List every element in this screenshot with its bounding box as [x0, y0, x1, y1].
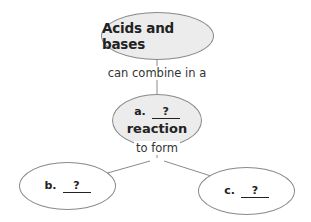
blank-field-a: ?	[152, 106, 180, 119]
blank-field-c: ?	[241, 185, 269, 198]
node-acids-and-bases: Acids and bases	[101, 12, 214, 60]
node-c: c. ?	[198, 167, 295, 215]
blank-row-b: b. ?	[44, 179, 90, 193]
blank-row-a: a. ?	[134, 105, 180, 119]
blank-prefix-c: c.	[224, 184, 235, 197]
node-b: b. ?	[19, 162, 116, 210]
link-label-to-form: to form	[134, 141, 180, 155]
node-suffix-reaction: reaction	[127, 121, 188, 136]
blank-prefix-a: a.	[134, 105, 146, 118]
link-label-can-combine: can combine in a	[106, 66, 209, 80]
node-title: Acids and bases	[102, 20, 213, 52]
blank-field-b: ?	[63, 180, 91, 193]
blank-prefix-b: b.	[44, 179, 56, 192]
node-a-reaction: a. ? reaction	[112, 94, 202, 147]
blank-row-c: c. ?	[224, 184, 269, 198]
